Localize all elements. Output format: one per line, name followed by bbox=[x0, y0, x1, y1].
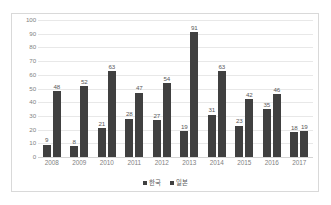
bar-group: 948 bbox=[38, 20, 66, 157]
bar-value-label: 31 bbox=[208, 107, 215, 113]
bar-slot: 8 bbox=[70, 20, 78, 157]
bar-value-label: 91 bbox=[191, 25, 198, 31]
y-axis-tick: 80 bbox=[16, 44, 36, 50]
bar[interactable] bbox=[208, 115, 216, 157]
bar[interactable] bbox=[290, 132, 298, 157]
bar[interactable] bbox=[273, 94, 281, 157]
bar-group: 2163 bbox=[93, 20, 121, 157]
legend-swatch-icon bbox=[143, 181, 147, 185]
bar-value-label: 54 bbox=[163, 76, 170, 82]
bar-slot: 46 bbox=[273, 20, 281, 157]
x-axis-tick: 2008 bbox=[38, 160, 66, 172]
bar[interactable] bbox=[190, 32, 198, 157]
bar[interactable] bbox=[235, 126, 243, 158]
bar-slot: 21 bbox=[98, 20, 106, 157]
bar-group: 1819 bbox=[286, 20, 314, 157]
y-axis-tick: 30 bbox=[16, 113, 36, 119]
bar-group: 2342 bbox=[231, 20, 259, 157]
legend-item[interactable]: 한국 bbox=[143, 180, 161, 186]
bar-value-label: 18 bbox=[291, 125, 298, 131]
bar[interactable] bbox=[153, 120, 161, 157]
y-axis-tick: 70 bbox=[16, 58, 36, 64]
bar-value-label: 9 bbox=[45, 137, 48, 143]
bar-value-label: 27 bbox=[153, 113, 160, 119]
bar-value-label: 63 bbox=[108, 64, 115, 70]
bar-slot: 19 bbox=[300, 20, 308, 157]
bar[interactable] bbox=[53, 91, 61, 157]
bar-value-label: 21 bbox=[98, 121, 105, 127]
y-axis-tick: 60 bbox=[16, 72, 36, 78]
bar-slot: 19 bbox=[180, 20, 188, 157]
bar[interactable] bbox=[135, 93, 143, 157]
x-axis-tick: 2014 bbox=[203, 160, 231, 172]
bar-value-label: 48 bbox=[53, 84, 60, 90]
bar-group: 3163 bbox=[203, 20, 231, 157]
bar-slot: 31 bbox=[208, 20, 216, 157]
bar[interactable] bbox=[125, 119, 133, 157]
bar-slot: 27 bbox=[153, 20, 161, 157]
y-axis-tick: 10 bbox=[16, 140, 36, 146]
bar-group: 1991 bbox=[176, 20, 204, 157]
bar-slot: 63 bbox=[218, 20, 226, 157]
bar-value-label: 19 bbox=[181, 124, 188, 130]
bar[interactable] bbox=[180, 131, 188, 157]
x-axis-tick: 2011 bbox=[121, 160, 149, 172]
bar-slot: 91 bbox=[190, 20, 198, 157]
y-axis: 1009080706050403020100 bbox=[16, 20, 36, 157]
legend-item[interactable]: 일본 bbox=[170, 180, 188, 186]
bar-group: 2847 bbox=[121, 20, 149, 157]
bar-groups: 94885221632847275419913163234235461819 bbox=[38, 20, 313, 157]
bar-group: 2754 bbox=[148, 20, 176, 157]
bar-value-label: 52 bbox=[81, 79, 88, 85]
bar-slot: 54 bbox=[163, 20, 171, 157]
y-axis-tick: 0 bbox=[16, 154, 36, 160]
bar[interactable] bbox=[163, 83, 171, 157]
bar-slot: 23 bbox=[235, 20, 243, 157]
x-axis-tick: 2010 bbox=[93, 160, 121, 172]
legend-label: 한국 bbox=[149, 180, 161, 186]
x-axis-tick: 2015 bbox=[231, 160, 259, 172]
x-axis-tick: 2016 bbox=[258, 160, 286, 172]
x-axis-tick: 2013 bbox=[176, 160, 204, 172]
bar-value-label: 23 bbox=[236, 118, 243, 124]
bar-value-label: 46 bbox=[273, 87, 280, 93]
bar-value-label: 35 bbox=[263, 102, 270, 108]
bar-slot: 35 bbox=[263, 20, 271, 157]
bar-slot: 28 bbox=[125, 20, 133, 157]
legend-swatch-icon bbox=[170, 181, 174, 185]
x-axis-tick: 2012 bbox=[148, 160, 176, 172]
bar-slot: 63 bbox=[108, 20, 116, 157]
x-axis-tick: 2009 bbox=[66, 160, 94, 172]
axis-baseline bbox=[38, 157, 313, 158]
bar-slot: 52 bbox=[80, 20, 88, 157]
y-axis-tick: 40 bbox=[16, 99, 36, 105]
bar-value-label: 8 bbox=[73, 139, 76, 145]
bar[interactable] bbox=[80, 86, 88, 157]
legend-label: 일본 bbox=[176, 180, 188, 186]
bar-value-label: 63 bbox=[218, 64, 225, 70]
x-axis: 2008200920102011201220132014201520162017 bbox=[38, 160, 313, 172]
chart-legend: 한국일본 bbox=[12, 177, 318, 189]
x-axis-tick: 2017 bbox=[286, 160, 314, 172]
bar[interactable] bbox=[218, 71, 226, 157]
bar-slot: 47 bbox=[135, 20, 143, 157]
bar[interactable] bbox=[108, 71, 116, 157]
bar-group: 3546 bbox=[258, 20, 286, 157]
bar[interactable] bbox=[300, 131, 308, 157]
bar[interactable] bbox=[263, 109, 271, 157]
bar[interactable] bbox=[70, 146, 78, 157]
bar-slot: 48 bbox=[53, 20, 61, 157]
y-axis-tick: 90 bbox=[16, 31, 36, 37]
bar-group: 852 bbox=[66, 20, 94, 157]
y-axis-tick: 50 bbox=[16, 85, 36, 91]
y-axis-tick: 20 bbox=[16, 126, 36, 132]
bar-value-label: 19 bbox=[301, 124, 308, 130]
bar-slot: 9 bbox=[43, 20, 51, 157]
bar-slot: 42 bbox=[245, 20, 253, 157]
bar-value-label: 47 bbox=[136, 85, 143, 91]
y-axis-tick: 100 bbox=[16, 17, 36, 23]
bar[interactable] bbox=[245, 99, 253, 157]
bar[interactable] bbox=[43, 145, 51, 157]
bar[interactable] bbox=[98, 128, 106, 157]
plot-area: 1009080706050403020100 94885221632847275… bbox=[12, 14, 318, 191]
